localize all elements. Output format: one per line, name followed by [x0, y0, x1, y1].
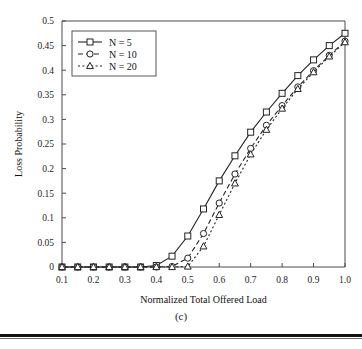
loss-probability-chart: 00.050.10.150.20.250.30.350.40.450.5 0.1… [0, 0, 362, 312]
data-point-circle [185, 255, 191, 261]
x-tick-label: 0.9 [308, 275, 320, 285]
y-tick-label: 0.4 [42, 66, 54, 76]
legend-label: N = 10 [109, 49, 137, 60]
data-point-square [326, 43, 332, 49]
figure-caption: (c) [0, 310, 362, 322]
x-tick-label: 0.6 [213, 275, 225, 285]
chart-background [0, 0, 362, 312]
x-tick-label: 0.8 [276, 275, 288, 285]
y-tick-label: 0.5 [42, 16, 54, 26]
x-tick-label: 0.4 [150, 275, 162, 285]
data-point-circle [200, 230, 206, 236]
data-point-square [216, 178, 222, 184]
x-tick-label: 0.7 [245, 275, 257, 285]
footer-rule-thin [0, 338, 362, 339]
y-tick-label: 0.25 [37, 139, 54, 149]
y-tick-label: 0 [49, 262, 54, 272]
y-tick-label: 0.1 [42, 213, 54, 223]
data-point-square [342, 30, 348, 36]
chart-legend: N = 5N = 10N = 20 [72, 31, 156, 76]
data-point-square [279, 90, 285, 96]
data-point-circle [232, 171, 238, 177]
x-tick-label: 0.2 [88, 275, 100, 285]
x-tick-label: 0.5 [182, 275, 194, 285]
y-tick-label: 0.2 [42, 164, 54, 174]
data-point-square [295, 73, 301, 79]
y-tick-label: 0.15 [37, 189, 54, 199]
legend-label: N = 20 [109, 61, 137, 72]
y-axis-title: Loss Probability [13, 111, 24, 177]
legend-marker-circle [87, 51, 93, 57]
figure-panel: 00.050.10.150.20.250.30.350.40.450.5 0.1… [0, 0, 362, 349]
y-tick-label: 0.35 [37, 90, 54, 100]
x-tick-label: 1.0 [339, 275, 351, 285]
data-point-square [169, 253, 175, 259]
data-point-square [263, 109, 269, 115]
y-tick-label: 0.45 [37, 41, 54, 51]
footer-rule-thick [0, 334, 362, 337]
data-point-square [185, 233, 191, 239]
x-tick-label: 0.3 [119, 275, 131, 285]
legend-marker-square [87, 39, 93, 45]
y-tick-label: 0.3 [42, 115, 54, 125]
data-point-square [311, 57, 317, 63]
data-point-square [201, 206, 207, 212]
y-tick-label: 0.05 [37, 238, 54, 248]
x-tick-label: 0.1 [56, 275, 68, 285]
legend-label: N = 5 [109, 37, 132, 48]
data-point-square [232, 153, 238, 159]
data-point-square [248, 129, 254, 135]
x-axis-title: Normalized Total Offered Load [140, 294, 266, 305]
data-point-circle [216, 200, 222, 206]
